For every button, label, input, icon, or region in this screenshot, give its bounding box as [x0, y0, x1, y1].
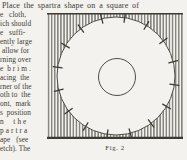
text-line: ich should — [0, 20, 47, 29]
text-line: ape (see — [0, 136, 47, 145]
figure-caption: Fig. 2 — [47, 144, 183, 151]
text-line: oth to the — [0, 91, 47, 100]
text-line: etch). The — [0, 145, 47, 154]
text-line: p a r t r a — [0, 127, 47, 136]
text-line: e cloth, — [0, 11, 47, 20]
text-line: ont, mark — [0, 100, 47, 109]
scanned-page: Place the spartra shape on a square of e… — [0, 0, 187, 160]
text-line: e b r i m . — [0, 65, 47, 74]
figure-2-diagram — [47, 13, 183, 139]
left-text-column: e cloth, ich should e suffi- ently large… — [0, 11, 47, 154]
text-line: e suffi- — [0, 29, 47, 38]
text-line: rning over — [0, 56, 47, 65]
spartra-shape-diagram — [47, 13, 183, 139]
text-line: acing the — [0, 74, 47, 83]
text-line: ently large — [0, 38, 47, 47]
text-line: allow for — [0, 47, 47, 56]
text-line: n t h e — [0, 118, 47, 127]
paragraph-top-line: Place the spartra shape on a square of — [2, 1, 187, 11]
spartra-circle — [57, 17, 175, 135]
text-line: rner of the — [0, 83, 47, 92]
text-line: s position — [0, 109, 47, 118]
